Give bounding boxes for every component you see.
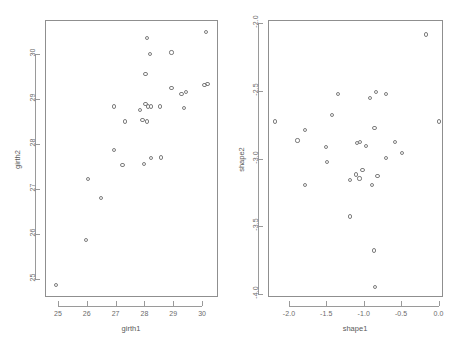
y-tick-label: -2.0 [252,5,259,38]
data-point [373,285,377,289]
x-axis-title-shape: shape1 [343,324,368,333]
data-point [142,162,146,166]
x-tick-mark [326,301,327,306]
x-tick-label: 26 [83,310,91,317]
x-tick-mark [289,301,290,306]
data-point [112,148,116,152]
data-point [324,145,328,149]
data-point [375,174,379,178]
data-point [370,183,374,187]
plot-frame-shape [268,20,443,297]
data-point [120,163,124,167]
x-axis-line [58,306,202,307]
data-point [368,96,372,100]
data-point [348,214,352,218]
data-point [330,113,334,117]
x-tick-mark [401,301,402,306]
y-tick-label: 26 [29,216,36,249]
y-tick-mark [35,54,40,55]
data-point [374,90,378,94]
x-tick-label: -1.0 [357,310,369,317]
x-axis-title-girth: girth1 [122,324,141,333]
data-point [303,183,307,187]
data-point [112,104,116,108]
data-point [348,178,352,182]
y-tick-mark [35,234,40,235]
data-point [159,155,163,159]
data-point [169,50,173,54]
data-point [372,248,376,252]
x-tick-mark [58,301,59,306]
data-point [148,52,152,56]
plot-frame-girth [45,20,218,297]
data-point [149,104,153,108]
x-tick-label: 29 [169,310,177,317]
y-tick-mark [35,99,40,100]
scatter-panel-shape: -2.0-1.5-1.0-0.50.0-2.0-2.5-3.0-3.5-4.0 … [230,0,460,347]
x-tick-label: 25 [54,310,62,317]
x-tick-label: -0.5 [395,310,407,317]
x-tick-label: 30 [198,310,206,317]
data-point [303,128,307,132]
data-point [372,126,376,130]
data-point [204,30,208,34]
y-tick-mark [258,91,263,92]
data-point [84,238,88,242]
data-point [182,106,186,110]
data-point [273,119,277,123]
data-points-girth [46,21,217,296]
x-tick-label: 27 [112,310,120,317]
data-point [145,119,149,123]
data-point [325,160,329,164]
x-tick-mark [364,301,365,306]
y-tick-mark [258,294,263,295]
data-point [205,82,209,86]
data-point [336,92,340,96]
y-tick-mark [258,23,263,24]
x-axis-line [289,306,439,307]
x-tick-mark [87,301,88,306]
figure-canvas: 252627282930252627282930 girth1 girth2 -… [0,0,460,347]
x-tick-mark [116,301,117,306]
data-point [357,176,361,180]
y-tick-label: 29 [29,81,36,114]
x-tick-label: -2.0 [283,310,295,317]
data-point [360,168,364,172]
data-points-shape [269,21,442,296]
y-tick-label: -3.0 [252,141,259,174]
y-tick-label: 27 [29,171,36,204]
data-point [169,86,173,90]
data-point [145,36,149,40]
data-point [358,140,362,144]
x-tick-label: -1.5 [320,310,332,317]
data-point [437,119,441,123]
x-tick-mark [173,301,174,306]
data-point [99,196,103,200]
data-point [364,144,368,148]
y-axis-title-shape: shape2 [237,143,246,177]
data-point [424,32,428,36]
x-tick-mark [202,301,203,306]
y-tick-mark [258,159,263,160]
data-point [184,90,188,94]
y-tick-label: 28 [29,126,36,159]
y-tick-mark [35,144,40,145]
data-point [393,140,397,144]
y-tick-label: -3.5 [252,208,259,241]
y-tick-label: 25 [29,261,36,294]
data-point [400,151,404,155]
data-point [143,72,147,76]
data-point [123,119,127,123]
y-tick-label: 30 [29,36,36,69]
data-point [295,138,299,142]
x-tick-label: 0.0 [433,310,443,317]
y-tick-label: -2.5 [252,73,259,106]
x-tick-mark [439,301,440,306]
y-axis-title-girth: girth2 [13,146,22,174]
x-tick-label: 28 [140,310,148,317]
data-point [384,156,388,160]
y-tick-mark [258,226,263,227]
y-tick-mark [35,189,40,190]
data-point [384,92,388,96]
data-point [179,92,183,96]
